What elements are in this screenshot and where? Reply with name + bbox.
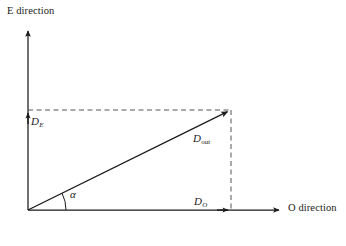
- resultant-vector-dout-label: Dout: [193, 133, 210, 144]
- alpha-angle-arc: [62, 193, 66, 210]
- e-direction-axis-label: E direction: [7, 6, 54, 17]
- dout-subscript: out: [201, 138, 210, 146]
- component-vector-do-label: DO: [194, 196, 207, 207]
- alpha-angle-label: α: [70, 189, 76, 200]
- component-vector-de-label: DE: [31, 116, 43, 127]
- de-subscript: E: [39, 121, 43, 129]
- do-subscript: O: [202, 201, 207, 209]
- vector-diagram: E direction O direction DE Dout DO α: [0, 0, 346, 246]
- o-direction-axis-label: O direction: [288, 203, 337, 214]
- de-symbol: D: [31, 115, 39, 127]
- dout-symbol: D: [193, 132, 201, 144]
- do-symbol: D: [194, 195, 202, 207]
